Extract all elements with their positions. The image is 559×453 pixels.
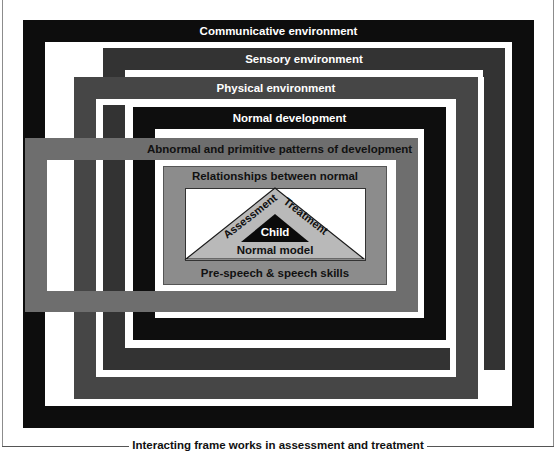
caption-row: Interacting frame works in assessment an… <box>2 437 554 453</box>
normal-model-label: Normal model <box>215 244 335 256</box>
figure-caption-text: Interacting frame works in assessment an… <box>129 439 426 451</box>
child-label: Child <box>245 226 305 238</box>
figure-caption: Interacting frame works in assessment an… <box>2 437 554 453</box>
